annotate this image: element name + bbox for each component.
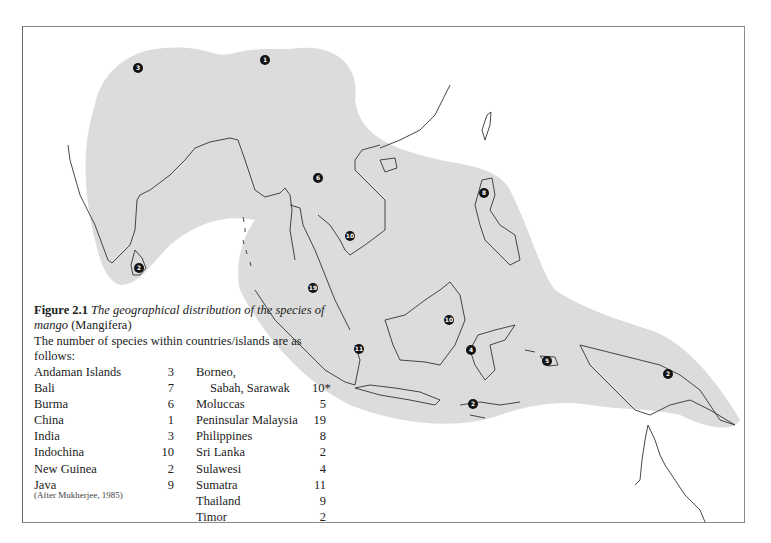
- table-row: China1: [34, 412, 174, 428]
- species-count: 5: [312, 396, 326, 412]
- marker-timor: 2: [468, 399, 478, 409]
- table-row: Sulawesi4: [196, 461, 326, 477]
- figure-intro: The number of species within countries/i…: [34, 334, 302, 363]
- region-name: Andaman Islands: [34, 364, 158, 380]
- species-count: 1: [158, 412, 174, 428]
- table-row: Indochina10: [34, 444, 174, 460]
- marker-sri-lanka: 2: [134, 263, 144, 273]
- region-name: India: [34, 428, 158, 444]
- marker-indochina: 10: [345, 231, 355, 241]
- region-name: Sumatra: [196, 477, 312, 493]
- region-name: Thailand: [196, 493, 312, 509]
- region-name: Sri Lanka: [196, 444, 312, 460]
- marker-philippines: 8: [479, 188, 489, 198]
- species-count: 2: [312, 509, 326, 525]
- table-row: Thailand9: [196, 493, 326, 509]
- region-name: New Guinea: [34, 461, 158, 477]
- species-count: 7: [158, 380, 174, 396]
- table-row: Borneo,: [196, 364, 326, 380]
- table-row: Andaman Islands3: [34, 364, 174, 380]
- table-row: Timor2: [196, 509, 326, 525]
- marker-new-guinea: 2: [663, 369, 673, 379]
- region-name: Borneo,: [196, 364, 312, 380]
- species-count: 9: [158, 477, 174, 493]
- region-name: China: [34, 412, 158, 428]
- table-row: Moluccas5: [196, 396, 326, 412]
- species-count: 11: [312, 477, 326, 493]
- table-row: Sumatra11: [196, 477, 326, 493]
- species-count: [312, 364, 326, 380]
- table-row: Peninsular Malaysia19: [196, 412, 326, 428]
- species-table-right: Borneo,Sabah, Sarawak10*Moluccas5Peninsu…: [196, 364, 326, 525]
- table-row: Burma6: [34, 396, 174, 412]
- marker-peninsular-malaysia: 19: [308, 283, 318, 293]
- species-count: 3: [158, 364, 174, 380]
- species-count: 9: [312, 493, 326, 509]
- coastline-australia: [635, 425, 705, 522]
- figure-number: Figure 2.1: [34, 303, 88, 317]
- marker-burma: 6: [313, 173, 323, 183]
- table-row: India3: [34, 428, 174, 444]
- marker-andaman: 3: [133, 63, 143, 73]
- marker-sulawesi: 4: [466, 345, 476, 355]
- region-name: Peninsular Malaysia: [196, 412, 312, 428]
- species-count: 19: [312, 412, 326, 428]
- table-row: Bali7: [34, 380, 174, 396]
- marker-sumatra: 11: [354, 344, 364, 354]
- species-count: 2: [312, 444, 326, 460]
- table-row: Sri Lanka2: [196, 444, 326, 460]
- region-name: Moluccas: [196, 396, 312, 412]
- marker-borneo: 10: [444, 315, 454, 325]
- species-count: 10: [158, 444, 174, 460]
- species-count: 2: [158, 461, 174, 477]
- table-row: Philippines8: [196, 428, 326, 444]
- table-row: Sabah, Sarawak10*: [196, 380, 326, 396]
- distribution-area: [86, 47, 740, 427]
- marker-moluccas: 5: [542, 356, 552, 366]
- species-count: 6: [158, 396, 174, 412]
- region-name: Burma: [34, 396, 158, 412]
- species-count: 4: [312, 461, 326, 477]
- region-name: Sabah, Sarawak: [196, 380, 312, 396]
- region-name: Timor: [196, 509, 312, 525]
- figure-caption: Figure 2.1 The geographical distribution…: [34, 303, 334, 364]
- region-name: Sulawesi: [196, 461, 312, 477]
- species-count: 8: [312, 428, 326, 444]
- source-citation: (After Mukherjee, 1985): [34, 490, 123, 500]
- table-row: New Guinea2: [34, 461, 174, 477]
- region-name: Philippines: [196, 428, 312, 444]
- species-count: 10*: [312, 380, 326, 396]
- marker-china: 1: [260, 55, 270, 65]
- region-name: Indochina: [34, 444, 158, 460]
- figure-genus: (Mangifera): [71, 318, 131, 332]
- species-count: 3: [158, 428, 174, 444]
- region-name: Bali: [34, 380, 158, 396]
- species-table-left: Andaman Islands3Bali7Burma6China1India3I…: [34, 364, 174, 493]
